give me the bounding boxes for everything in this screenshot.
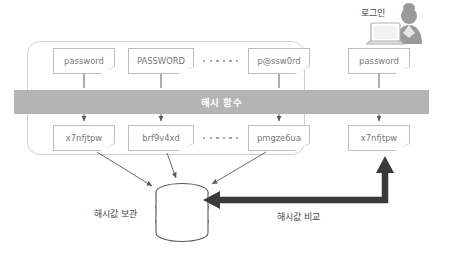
laptop-icon — [367, 23, 404, 44]
diagram-canvas: 해시 함수 password PASSWORD p@ssw0rd passwor… — [0, 0, 452, 253]
hash-function-label: 해시 함수 — [14, 90, 429, 114]
hash-database — [156, 184, 208, 242]
hash-output-note-2: brf9v4xd — [128, 125, 194, 151]
ellipsis-top-icon — [203, 60, 238, 62]
hash-input-connectors — [84, 74, 379, 88]
store-caption: 해시값 보관 — [94, 207, 137, 220]
password-input-text-1: password — [64, 56, 104, 66]
hash-output-text-2: brf9v4xd — [142, 133, 180, 143]
compare-caption: 해시값 비교 — [277, 210, 320, 223]
password-input-note-3: p@ssw0rd — [248, 48, 310, 74]
password-input-text-3: p@ssw0rd — [257, 56, 300, 66]
password-input-text-2: PASSWORD — [137, 56, 185, 66]
hash-output-note-1: x7nfjtpw — [53, 125, 115, 151]
compare-arrow — [216, 172, 385, 200]
hash-output-text-1: x7nfjtpw — [66, 133, 102, 143]
login-hash-output-text: x7nfjtpw — [361, 133, 397, 143]
hash-output-note-3: pmgze6ua — [248, 125, 310, 151]
password-input-note-2: PASSWORD — [128, 48, 194, 74]
hash-function-band: 해시 함수 — [14, 90, 429, 114]
hash-output-text-3: pmgze6ua — [257, 133, 301, 143]
ellipsis-bottom-icon — [203, 137, 238, 139]
login-label: 로그인 — [361, 6, 385, 19]
password-input-note-1: password — [53, 48, 115, 74]
login-password-input-note: password — [348, 48, 410, 74]
compare-arrow-head-up — [376, 156, 394, 173]
login-password-input-text: password — [359, 56, 399, 66]
hash-output-connectors — [84, 114, 379, 121]
store-arrows — [97, 152, 266, 186]
login-hash-output-note: x7nfjtpw — [348, 125, 410, 151]
